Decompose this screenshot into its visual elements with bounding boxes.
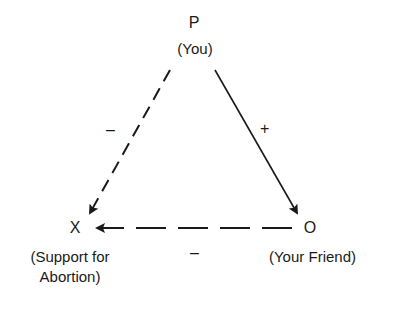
node-x-caption-line1: (Support for (10, 248, 130, 266)
edge-p-x-sign: – (106, 122, 115, 138)
balance-triangle-diagram: P (You) X (Support for Abortion) O (Your… (0, 0, 396, 310)
node-o-letter: O (300, 219, 320, 237)
node-x-caption-line2: Abortion) (10, 268, 130, 286)
edge-o-x-sign: – (190, 245, 199, 261)
edge-p-to-x (90, 70, 170, 213)
edge-p-o-sign: + (260, 121, 269, 137)
edge-p-to-o (215, 70, 297, 213)
node-p-letter: P (182, 14, 206, 32)
node-p-caption: (You) (160, 40, 230, 58)
node-x-letter: X (65, 219, 85, 237)
node-o-caption: (Your Friend) (250, 248, 375, 266)
